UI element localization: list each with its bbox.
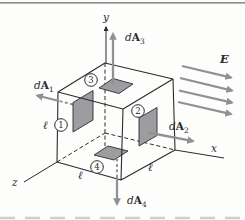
x-axis-label: x <box>211 142 217 154</box>
y-axis-label: y <box>102 11 110 23</box>
face-number-3-label: 3 <box>88 75 93 85</box>
e-field-label: E <box>219 52 229 66</box>
figure-canvas: 1 2 3 4 dA1 dA2 dA3 dA4 E y x z ℓ ℓ ℓ <box>0 0 245 220</box>
top-rule <box>0 2 245 4</box>
face-number-4: 4 <box>91 161 104 174</box>
face-number-2: 2 <box>132 105 145 118</box>
edge-length-label-left: ℓ <box>43 119 48 132</box>
face-number-1: 1 <box>55 119 68 132</box>
face-number-4-label: 4 <box>94 162 99 172</box>
face-number-1-label: 1 <box>58 120 63 130</box>
edge-length-label-bottom-right: ℓ <box>148 161 153 174</box>
face-number-2-label: 2 <box>135 106 140 116</box>
flux-cube-figure: 1 2 3 4 dA1 dA2 dA3 dA4 E y x z ℓ ℓ ℓ <box>0 0 245 220</box>
edge-length-label-bottom-left: ℓ <box>78 169 83 182</box>
z-axis-label: z <box>11 176 18 188</box>
face-number-3: 3 <box>85 74 98 87</box>
